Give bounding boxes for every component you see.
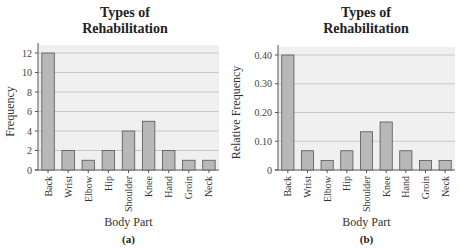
y-tick-label: 2 [27,145,32,156]
x-tick-label: Hand [163,176,174,198]
chart-title-line: Rehabilitation [323,21,409,36]
x-tick-label: Shoulder [123,175,134,212]
x-tick-label: Knee [381,175,392,197]
panel-label: (b) [360,233,374,246]
bar-back [282,55,294,170]
bar-hip [102,151,114,171]
chart-title-line: Types of [341,5,391,20]
x-tick-label: Elbow [83,175,94,202]
x-tick-label: Groin [420,176,431,199]
y-tick-label: 10 [22,67,32,78]
bar-groin [183,160,195,170]
x-tick-label: Groin [183,176,194,199]
y-tick-label: 0 [27,165,32,176]
y-axis-label: Frequency [3,86,17,137]
x-tick-label: Back [282,176,293,197]
x-tick-label: Back [43,176,54,197]
x-axis-label: Body Part [104,215,153,229]
y-axis-label: Relative Frequency [230,66,243,160]
bar-elbow [321,161,333,170]
chart-panel-a: Types ofRehabilitation024681012BackWrist… [0,0,229,249]
y-tick-label: 6 [27,106,32,117]
bar-elbow [82,160,94,170]
bar-groin [419,161,431,170]
y-tick-label: 0.10 [255,136,273,147]
x-tick-label: Hand [400,176,411,198]
y-tick-label: 0.40 [255,50,273,61]
bar-neck [439,161,451,170]
chart-title-line: Types of [100,5,150,20]
bar-neck [203,160,215,170]
x-tick-label: Shoulder [361,175,372,212]
frequency-bar-chart: Types ofRehabilitation024681012BackWrist… [0,0,229,249]
chart-title-line: Rehabilitation [82,21,168,36]
bar-back [42,53,54,170]
x-tick-label: Wrist [302,176,313,198]
x-tick-label: Neck [203,176,214,197]
panel-label: (a) [122,233,135,246]
x-tick-label: Knee [143,175,154,197]
x-axis-label: Body Part [342,215,391,229]
bar-knee [142,121,154,170]
y-tick-label: 0.20 [255,107,273,118]
y-tick-label: 8 [27,87,32,98]
bar-hip [341,151,353,170]
x-tick-label: Neck [440,176,451,197]
x-tick-label: Wrist [63,176,74,198]
x-tick-label: Hip [341,176,352,191]
bar-wrist [62,151,74,171]
x-tick-label: Hip [103,176,114,191]
y-tick-label: 12 [22,48,32,59]
chart-panel-b: Types ofRehabilitation00.100.200.300.40B… [230,0,459,249]
bar-wrist [301,151,313,170]
bar-hand [400,151,412,170]
x-tick-label: Elbow [322,175,333,202]
bar-shoulder [360,132,372,170]
bar-knee [380,122,392,170]
relative-frequency-bar-chart: Types ofRehabilitation00.100.200.300.40B… [230,0,459,249]
bar-hand [162,151,174,171]
y-tick-label: 0 [267,165,272,176]
bar-shoulder [122,131,134,170]
y-tick-label: 0.30 [255,78,273,89]
y-tick-label: 4 [27,126,32,137]
